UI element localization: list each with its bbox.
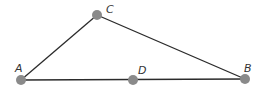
label-c: C	[106, 3, 114, 16]
point-d	[128, 75, 138, 85]
point-b	[240, 74, 250, 84]
segment-ac	[21, 15, 97, 80]
label-b: B	[244, 62, 252, 75]
label-d: D	[138, 64, 146, 77]
label-a: A	[14, 62, 23, 75]
point-a	[16, 75, 26, 85]
point-c	[92, 10, 102, 20]
triangle-diagram: A B C D	[0, 0, 266, 91]
segment-cb	[97, 15, 245, 79]
diagram-canvas: A B C D	[0, 0, 266, 91]
